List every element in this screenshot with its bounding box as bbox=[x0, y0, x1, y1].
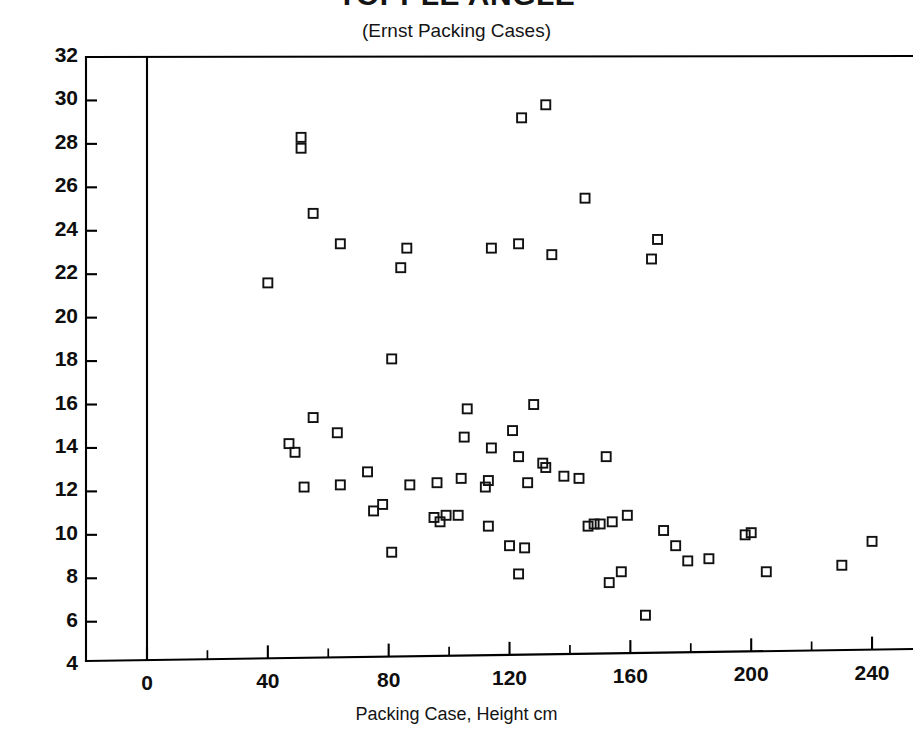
axes-group bbox=[86, 56, 913, 661]
data-point-marker bbox=[559, 472, 568, 481]
y-axis-tick-label: 18 bbox=[34, 347, 78, 371]
y-axis-tick-label: 24 bbox=[34, 217, 78, 241]
data-point-marker bbox=[508, 426, 517, 435]
data-point-marker bbox=[333, 428, 342, 437]
y-axis-tick-label: 32 bbox=[34, 43, 78, 67]
data-point-marker bbox=[309, 209, 318, 218]
plot-area bbox=[0, 0, 913, 700]
data-point-marker bbox=[529, 400, 538, 409]
data-point-marker bbox=[402, 244, 411, 253]
data-point-marker bbox=[605, 578, 614, 587]
data-point-marker bbox=[487, 244, 496, 253]
data-point-marker bbox=[405, 480, 414, 489]
data-point-marker bbox=[300, 483, 309, 492]
data-point-marker bbox=[868, 537, 877, 546]
data-point-marker bbox=[336, 480, 345, 489]
data-point-marker bbox=[442, 511, 451, 520]
data-point-marker bbox=[653, 235, 662, 244]
data-points-group bbox=[263, 100, 876, 619]
data-point-marker bbox=[284, 439, 293, 448]
y-axis-tick-label: 22 bbox=[34, 260, 78, 284]
data-point-marker bbox=[297, 144, 306, 153]
data-point-marker bbox=[541, 100, 550, 109]
data-point-marker bbox=[517, 113, 526, 122]
data-point-marker bbox=[596, 519, 605, 528]
y-axis-tick-label: 30 bbox=[34, 86, 78, 110]
data-point-marker bbox=[505, 541, 514, 550]
x-axis-title: Packing Case, Height cm bbox=[0, 704, 913, 725]
data-point-marker bbox=[671, 541, 680, 550]
data-point-marker bbox=[547, 250, 556, 259]
data-point-marker bbox=[683, 556, 692, 565]
data-point-marker bbox=[291, 448, 300, 457]
data-point-marker bbox=[487, 443, 496, 452]
data-point-marker bbox=[514, 239, 523, 248]
data-point-marker bbox=[263, 278, 272, 287]
x-axis-tick-label: 160 bbox=[600, 664, 660, 688]
data-point-marker bbox=[659, 526, 668, 535]
data-point-marker bbox=[433, 478, 442, 487]
data-point-marker bbox=[463, 404, 472, 413]
data-point-marker bbox=[484, 522, 493, 531]
y-axis-tick-label: 8 bbox=[34, 564, 78, 588]
y-axis-tick-label: 6 bbox=[34, 608, 78, 632]
data-point-marker bbox=[387, 548, 396, 557]
data-point-marker bbox=[617, 567, 626, 576]
plot-top-border bbox=[86, 56, 913, 57]
data-point-marker bbox=[309, 413, 318, 422]
data-point-marker bbox=[641, 611, 650, 620]
data-point-marker bbox=[762, 567, 771, 576]
data-point-marker bbox=[363, 467, 372, 476]
data-point-marker bbox=[608, 517, 617, 526]
data-point-marker bbox=[520, 543, 529, 552]
data-point-marker bbox=[378, 500, 387, 509]
y-axis-tick-label: 14 bbox=[34, 434, 78, 458]
data-point-marker bbox=[457, 474, 466, 483]
x-axis-tick-label: 120 bbox=[480, 666, 540, 690]
data-point-marker bbox=[396, 263, 405, 272]
scatter-plot-svg bbox=[0, 0, 913, 700]
data-point-marker bbox=[523, 478, 532, 487]
data-point-marker bbox=[581, 194, 590, 203]
x-axis-tick-label: 40 bbox=[238, 669, 298, 693]
y-axis-tick-label: 26 bbox=[34, 173, 78, 197]
y-axis-tick-label: 28 bbox=[34, 130, 78, 154]
x-axis-tick-label: 200 bbox=[721, 662, 781, 686]
data-point-marker bbox=[484, 476, 493, 485]
data-point-marker bbox=[336, 239, 345, 248]
data-point-marker bbox=[454, 511, 463, 520]
x-axis-tick-label: 0 bbox=[117, 671, 177, 695]
data-point-marker bbox=[460, 433, 469, 442]
x-axis-line bbox=[86, 649, 913, 661]
y-axis-tick-label: 20 bbox=[34, 304, 78, 328]
x-axis-tick-label: 240 bbox=[842, 661, 902, 685]
data-point-marker bbox=[297, 133, 306, 142]
data-point-marker bbox=[623, 511, 632, 520]
data-point-marker bbox=[481, 483, 490, 492]
data-point-marker bbox=[602, 452, 611, 461]
y-axis-tick-label: 10 bbox=[34, 521, 78, 545]
chart-page: TOPPLE ANGLE (Ernst Packing Cases) 46810… bbox=[0, 0, 913, 735]
data-point-marker bbox=[514, 569, 523, 578]
data-point-marker bbox=[704, 554, 713, 563]
y-axis-tick-label: 4 bbox=[34, 651, 78, 675]
data-point-marker bbox=[647, 255, 656, 264]
data-point-marker bbox=[575, 474, 584, 483]
y-axis-tick-label: 12 bbox=[34, 477, 78, 501]
data-point-marker bbox=[837, 561, 846, 570]
data-point-marker bbox=[514, 452, 523, 461]
x-axis-tick-label: 80 bbox=[359, 668, 419, 692]
data-point-marker bbox=[369, 506, 378, 515]
data-point-marker bbox=[387, 354, 396, 363]
y-axis-tick-label: 16 bbox=[34, 391, 78, 415]
